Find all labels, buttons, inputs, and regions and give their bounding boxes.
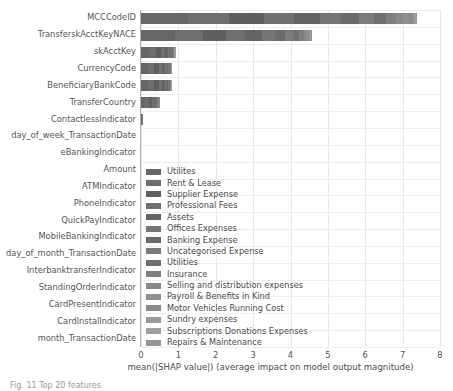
y-tick-label: Amount [0,165,136,174]
legend-swatch [146,169,161,175]
legend-swatch [146,180,161,186]
legend-item[interactable]: Utilites [146,166,308,177]
legend-item[interactable]: Professional Fees [146,200,308,211]
legend-label: Insurance [167,270,207,279]
legend-label: Banking Expense [167,236,238,245]
grid-line-horizontal [141,162,440,163]
bar-segment [386,13,396,24]
legend-label: Utilites [167,167,196,176]
legend-item[interactable]: Repairs & Maintenance [146,337,308,348]
x-tick-label: 3 [243,350,263,360]
bar-segment [359,13,374,24]
y-tick-label: TransferskAcctKeyNACE [0,30,136,39]
legend-item[interactable]: Motor Vehicles Running Cost [146,303,308,314]
legend-label: Uncategorised Expense [167,247,264,256]
legend-item[interactable]: Offices Expenses [146,223,308,234]
x-tick-label: 0 [131,350,151,360]
x-axis-label: mean(|SHAP value|) (average impact on mo… [0,362,453,372]
bar-segment [141,63,148,74]
bar-segment [149,47,156,58]
bar-segment [341,13,359,24]
grid-line-horizontal [141,145,440,146]
legend-swatch [146,191,161,197]
x-tick-label: 8 [430,350,450,360]
y-tick-label: day_of_month_TransactionDate [0,249,136,258]
bar-row [141,30,311,41]
y-tick-label: TransferCountry [0,98,136,107]
legend-label: Payroll & Benefits in Kind [167,292,270,301]
legend-item[interactable]: Rent & Lease [146,177,308,188]
legend-swatch [146,294,161,300]
bar-segment [175,30,203,41]
x-tick-label: 4 [281,350,301,360]
bar-row [141,47,175,58]
legend-item[interactable]: Insurance [146,269,308,280]
legend-item[interactable]: Banking Expense [146,234,308,245]
y-tick-label: day_of_week_TransactionDate [0,131,136,140]
legend: UtilitesRent & LeaseSupplier ExpenseProf… [146,166,308,348]
legend-item[interactable]: Subscriptions Donations Expenses [146,325,308,336]
grid-line-horizontal [141,94,440,95]
legend-swatch [146,203,161,209]
bar-segment [262,30,275,41]
bar-row [141,13,416,24]
legend-swatch [146,317,161,323]
bar-segment [141,13,188,24]
bar-segment [141,47,149,58]
bar-segment [396,13,403,24]
legend-label: Repairs & Maintenance [167,338,262,347]
bar-segment [294,13,319,24]
legend-item[interactable]: Payroll & Benefits in Kind [146,291,308,302]
legend-item[interactable]: Selling and distribution expenses [146,280,308,291]
bar-segment [188,13,229,24]
y-tick-label: QuickPayIndicator [0,216,136,225]
legend-item[interactable]: Assets [146,212,308,223]
grid-line-vertical [440,10,441,347]
legend-swatch [146,260,161,266]
legend-label: Offices Expenses [167,224,237,233]
legend-label: Professional Fees [167,201,237,210]
bar-row [141,114,143,125]
legend-label: Subscriptions Donations Expenses [167,327,308,336]
legend-swatch [146,214,161,220]
legend-swatch [146,237,161,243]
legend-item[interactable]: Uncategorised Expense [146,246,308,257]
y-tick-label: MCCCodeID [0,13,136,22]
legend-swatch [146,305,161,311]
figure-caption: Fig. 11 Top 20 features [10,381,310,391]
legend-label: Assets [167,213,194,222]
legend-swatch [146,248,161,254]
bar-row [141,63,172,74]
legend-label: Rent & Lease [167,179,221,188]
legend-label: Utilities [167,258,198,267]
y-tick-label: CardPresentIndicator [0,300,136,309]
bar-segment [141,80,148,91]
bar-segment [229,13,265,24]
legend-swatch [146,340,161,346]
legend-swatch [146,271,161,277]
legend-item[interactable]: Utilities [146,257,308,268]
shap-summary-figure: MCCCodeIDTransferskAcctKeyNACEskAcctKeyC… [0,0,453,391]
y-tick-label: PhoneIndicator [0,199,136,208]
y-tick-label: skAcctKey [0,47,136,56]
bar-segment [374,13,386,24]
x-tick-label: 1 [168,350,188,360]
x-axis-label-text: mean(|SHAP value|) (average impact on mo… [127,362,413,372]
legend-swatch [146,283,161,289]
legend-item[interactable]: Supplier Expense [146,189,308,200]
legend-item[interactable]: Sundry expenses [146,314,308,325]
y-tick-label: ContactlessIndicator [0,115,136,124]
y-tick-label: CardInstalIndicator [0,317,136,326]
legend-swatch [146,328,161,334]
bar-segment [285,30,293,41]
legend-label: Motor Vehicles Running Cost [167,304,284,313]
bar-segment [275,30,285,41]
bar-segment [226,30,245,41]
grid-line-horizontal [141,44,440,45]
x-tick-label: 2 [206,350,226,360]
x-tick-label: 5 [318,350,338,360]
bar-segment [245,30,261,41]
y-tick-label: eBankingIndicator [0,148,136,157]
bar-row [141,80,171,91]
grid-line-horizontal [141,10,440,11]
